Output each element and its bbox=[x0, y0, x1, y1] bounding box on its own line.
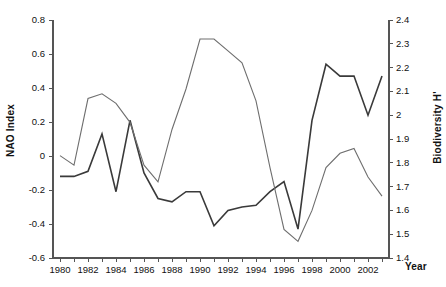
y-axis-left-tick-label: 0.8 bbox=[15, 14, 45, 25]
y-axis-left-tick-label: -0.6 bbox=[15, 252, 45, 263]
y-axis-right-tick-label: 1.7 bbox=[396, 181, 426, 192]
series-line-biodiversity bbox=[60, 39, 382, 241]
y-axis-left-tick-label: 0.4 bbox=[15, 82, 45, 93]
y-axis-right-tick-label: 2.2 bbox=[396, 62, 426, 73]
y-axis-left-tick-label: -0.2 bbox=[15, 184, 45, 195]
y-axis-right-tick-label: 1.6 bbox=[396, 204, 426, 215]
y-axis-left-tick-label: 0.2 bbox=[15, 116, 45, 127]
y-axis-right-tick-label: 2 bbox=[396, 109, 426, 120]
axes bbox=[49, 20, 393, 262]
y-axis-right-tick-label: 1.4 bbox=[396, 252, 426, 263]
data-series bbox=[60, 39, 382, 241]
y-axis-right-tick-label: 2.4 bbox=[396, 14, 426, 25]
series-line-nao-index bbox=[60, 64, 382, 229]
chart-figure: NAO Index Biodiversity H' Year 0.80.60.4… bbox=[0, 0, 446, 287]
y-axis-right-title: Biodiversity H' bbox=[432, 83, 443, 173]
y-axis-right-tick-label: 1.9 bbox=[396, 133, 426, 144]
y-axis-left-tick-label: -0.4 bbox=[15, 218, 45, 229]
y-axis-right-tick-label: 1.8 bbox=[396, 157, 426, 168]
x-axis-tick-label: 2002 bbox=[350, 264, 386, 275]
y-axis-left-tick-label: 0 bbox=[15, 150, 45, 161]
y-axis-left-title: NAO Index bbox=[5, 96, 16, 166]
y-axis-right-tick-label: 2.3 bbox=[396, 38, 426, 49]
y-axis-left-tick-label: 0.6 bbox=[15, 48, 45, 59]
y-axis-right-tick-label: 1.5 bbox=[396, 228, 426, 239]
y-axis-right-tick-label: 2.1 bbox=[396, 85, 426, 96]
dual-axis-line-chart bbox=[0, 0, 446, 287]
